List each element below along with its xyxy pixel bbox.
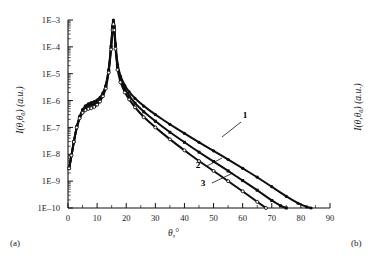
marker-1	[154, 113, 157, 116]
marker-1	[305, 205, 308, 208]
marker-3	[101, 95, 104, 98]
marker-3	[212, 169, 215, 172]
marker-2	[198, 151, 201, 154]
marker-1	[270, 185, 273, 188]
marker-1	[142, 105, 145, 108]
marker-2	[285, 207, 288, 210]
figure-container: 1E–31E–41E–51E–61E–71E–81E–91E–100102030…	[0, 0, 371, 261]
marker-3	[99, 100, 102, 103]
marker-2	[241, 179, 244, 182]
marker-3	[81, 111, 84, 114]
y-tick-label: 1E–10	[38, 203, 60, 213]
y-tick-label: 1E–9	[42, 176, 60, 186]
panel-label-b: (b)	[351, 238, 362, 248]
y-axis-title: I(θ,θ₀) (a.u.)	[15, 50, 25, 170]
marker-3	[256, 200, 259, 203]
marker-2	[270, 199, 273, 202]
marker-2	[90, 104, 93, 107]
panel-label-a: (a)	[10, 238, 20, 248]
x-tick-label: 50	[209, 213, 218, 223]
marker-3	[110, 48, 113, 51]
marker-3	[72, 140, 75, 143]
curve-3	[68, 23, 268, 210]
x-tick-label: 80	[297, 213, 306, 223]
x-tick-label: 30	[151, 213, 160, 223]
curve-1	[68, 18, 313, 209]
leader-line-1	[222, 122, 241, 137]
x-tick-label: 70	[267, 213, 276, 223]
marker-2	[227, 169, 230, 172]
marker-3	[114, 47, 117, 50]
curve-2	[68, 20, 288, 209]
marker-3	[227, 180, 230, 183]
curve-label-1: 1	[243, 110, 248, 120]
y-tick-label: 1E–7	[42, 123, 61, 133]
marker-3	[142, 116, 145, 119]
marker-2	[154, 120, 157, 123]
x-tick-label: 0	[66, 213, 70, 223]
marker-1	[227, 158, 230, 161]
marker-2	[142, 110, 145, 113]
marker-1	[241, 167, 244, 170]
marker-3	[112, 23, 115, 26]
curve-label-3: 3	[201, 178, 206, 188]
marker-3	[116, 68, 119, 71]
marker-3	[93, 105, 96, 108]
x-tick-label: 40	[180, 213, 189, 223]
marker-1	[285, 195, 288, 198]
marker-3	[133, 106, 136, 109]
y-tick-label: 1E–3	[42, 15, 60, 25]
marker-2	[168, 131, 171, 134]
marker-2	[279, 204, 282, 207]
plot-canvas: 1E–31E–41E–51E–61E–71E–81E–91E–100102030…	[0, 0, 340, 261]
x-axis-title: θ,°	[168, 228, 179, 238]
marker-3	[104, 87, 107, 90]
marker-3	[70, 154, 73, 157]
marker-3	[168, 138, 171, 141]
marker-1	[256, 176, 259, 179]
marker-3	[128, 98, 131, 101]
y-tick-label: 1E–8	[42, 149, 60, 159]
marker-1	[212, 149, 215, 152]
panel-a: 1E–31E–41E–51E–61E–71E–81E–91E–100102030…	[0, 0, 340, 261]
marker-3	[68, 167, 71, 170]
marker-1	[133, 97, 136, 100]
panel-b: I(θ,θ₀) (a.u.)	[340, 0, 371, 261]
y-axis-title-text: I(θ,θ₀) (a.u.)	[15, 86, 25, 133]
marker-3	[75, 126, 78, 129]
curve-line-2	[69, 23, 286, 208]
y-tick-label: 1E–4	[42, 42, 61, 52]
marker-3	[264, 207, 267, 210]
marker-1	[197, 141, 200, 144]
marker-3	[183, 149, 186, 152]
x-tick-label: 10	[93, 213, 102, 223]
marker-1	[296, 202, 299, 205]
marker-3	[78, 117, 81, 120]
x-tick-label: 20	[122, 213, 131, 223]
marker-3	[123, 91, 126, 94]
marker-3	[107, 71, 110, 74]
y-tick-label: 1E–5	[42, 69, 60, 79]
curve-line-1	[69, 21, 311, 208]
curve-line-3	[69, 26, 266, 208]
marker-1	[168, 123, 171, 126]
marker-3	[113, 29, 116, 32]
curve-label-2: 2	[196, 160, 201, 170]
marker-3	[241, 190, 244, 193]
marker-1	[183, 132, 186, 135]
curves-group	[68, 18, 313, 209]
y-tick-label: 1E–6	[42, 96, 61, 106]
panel-b-y-axis-title: I(θ,θ₀) (a.u.)	[353, 52, 363, 162]
axes-group: 1E–31E–41E–51E–61E–71E–81E–91E–100102030…	[38, 15, 335, 223]
marker-3	[119, 81, 122, 84]
marker-3	[154, 126, 157, 129]
marker-2	[87, 104, 90, 107]
marker-2	[256, 189, 259, 192]
panel-b-y-axis-title-text: I(θ,θ₀) (a.u.)	[353, 83, 363, 130]
marker-3	[96, 103, 99, 106]
x-axis-title-text: θ,°	[168, 228, 179, 238]
x-tick-label: 60	[238, 213, 247, 223]
marker-2	[183, 141, 186, 144]
marker-1	[309, 206, 312, 209]
x-tick-label: 90	[326, 213, 335, 223]
